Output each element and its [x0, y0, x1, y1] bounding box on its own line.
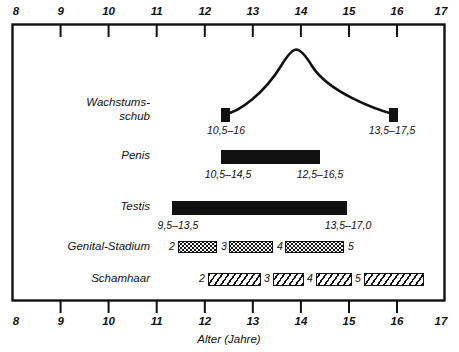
bottom-tick-label-15: 15: [343, 315, 356, 327]
genital-stage-box-3-4: [229, 241, 273, 253]
row-label-wachstumsschub-line1: Wachstums-: [30, 96, 150, 108]
row-label-testis: Testis: [30, 200, 150, 212]
schamhaar-stage-box-4-5: [316, 273, 352, 286]
schamhaar-stage-number-2: 2: [199, 272, 205, 284]
top-tick-label-11: 11: [151, 5, 163, 17]
top-tick-label-14: 14: [294, 5, 307, 17]
bottom-tick-label-8: 8: [13, 315, 19, 327]
penis-end-range: 12,5–16,5: [297, 168, 344, 180]
testis-start-range: 9,5–13,5: [158, 219, 199, 231]
schamhaar-stage-box-3-4: [273, 273, 304, 286]
top-tick-label-12: 12: [198, 5, 211, 17]
top-tick-label-16: 16: [391, 5, 404, 17]
growth-spurt-start-cap: [221, 108, 230, 122]
bottom-tick-label-11: 11: [151, 315, 163, 327]
genital-stage-number-5: 5: [348, 240, 354, 252]
bottom-tick-label-9: 9: [57, 315, 63, 327]
top-tick-label-10: 10: [102, 5, 115, 17]
genital-stage-number-3: 3: [221, 240, 227, 252]
testis-bar: [172, 201, 347, 215]
row-label-schamhaar: Schamhaar: [30, 272, 150, 284]
bottom-tick-label-17: 17: [435, 315, 448, 327]
schamhaar-stage-number-5: 5: [355, 272, 361, 284]
row-label-genital-stadium: Genital-Stadium: [10, 240, 150, 252]
row-label-wachstumsschub-line2: schub: [30, 110, 150, 122]
schamhaar-stage-number-3: 3: [264, 272, 270, 284]
schamhaar-stage-box-5: [364, 273, 424, 286]
schamhaar-stage-number-4: 4: [307, 272, 313, 284]
top-tick-label-9: 9: [57, 5, 63, 17]
top-tick-label-8: 8: [13, 5, 19, 17]
testis-end-range: 13,5–17,0: [325, 219, 372, 231]
top-tick-label-13: 13: [246, 5, 259, 17]
bottom-tick-label-12: 12: [198, 315, 211, 327]
bottom-tick-label-13: 13: [246, 315, 259, 327]
bottom-tick-label-14: 14: [294, 315, 307, 327]
penis-bar: [221, 150, 320, 164]
row-label-penis: Penis: [30, 149, 150, 161]
genital-stage-number-2: 2: [169, 240, 175, 252]
x-axis-title: Alter (Jahre): [197, 333, 260, 345]
growth-spurt-start-range: 10,5–16: [207, 124, 245, 136]
top-tick-label-15: 15: [343, 5, 356, 17]
schamhaar-stage-box-2-3: [208, 273, 261, 286]
genital-stage-box-2-3: [178, 241, 217, 253]
top-tick-label-17: 17: [435, 5, 448, 17]
genital-stage-number-4: 4: [277, 240, 283, 252]
growth-spurt-end-range: 13,5–17,5: [369, 124, 416, 136]
bottom-tick-label-10: 10: [102, 315, 115, 327]
bottom-tick-label-16: 16: [391, 315, 404, 327]
genital-stage-box-4-5: [285, 241, 344, 253]
growth-spurt-end-cap: [389, 108, 398, 122]
penis-start-range: 10,5–14,5: [205, 168, 252, 180]
